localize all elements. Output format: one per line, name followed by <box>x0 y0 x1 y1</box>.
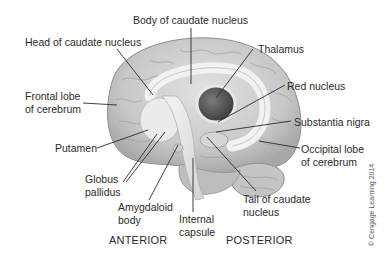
label-putamen: Putamen <box>55 142 97 155</box>
label-globus-pallidus: Globus pallidus <box>85 173 121 198</box>
label-internal-capsule-line1: Internal <box>179 213 215 226</box>
label-substantia-nigra: Substantia nigra <box>294 116 370 129</box>
label-occipital-lobe-line1: Occipital lobe <box>301 143 364 156</box>
label-tail-of-caudate-nucleus: Tail of caudate nucleus <box>243 193 311 218</box>
midbrain <box>200 132 228 148</box>
label-amygdaloid-line2: body <box>118 214 173 227</box>
label-tail-caudate-line2: nucleus <box>243 206 311 219</box>
label-globus-pallidus-line2: pallidus <box>85 186 121 199</box>
label-frontal-lobe-line2: of cerebrum <box>25 103 81 116</box>
label-head-of-caudate-nucleus: Head of caudate nucleus <box>25 36 141 49</box>
label-occipital-lobe: Occipital lobe of cerebrum <box>301 143 364 168</box>
label-amygdaloid-line1: Amygdaloid <box>118 201 173 214</box>
thalamus <box>197 86 235 122</box>
label-thalamus: Thalamus <box>258 43 304 56</box>
label-red-nucleus: Red nucleus <box>287 80 345 93</box>
label-frontal-lobe: Frontal lobe of cerebrum <box>25 90 81 115</box>
orientation-anterior: ANTERIOR <box>109 234 167 246</box>
copyright-notice: © Cengage Learning 2014 <box>368 164 375 246</box>
brain-diagram: Body of caudate nucleus Head of caudate … <box>0 0 388 263</box>
label-internal-capsule: Internal capsule <box>179 213 215 238</box>
cerebellum <box>231 163 284 197</box>
orientation-posterior: POSTERIOR <box>226 234 293 246</box>
label-body-of-caudate-nucleus: Body of caudate nucleus <box>133 14 248 27</box>
label-amygdaloid-body: Amygdaloid body <box>118 201 173 226</box>
label-globus-pallidus-line1: Globus <box>85 173 121 186</box>
label-tail-caudate-line1: Tail of caudate <box>243 193 311 206</box>
label-frontal-lobe-line1: Frontal lobe <box>25 90 81 103</box>
label-occipital-lobe-line2: of cerebrum <box>301 156 364 169</box>
label-internal-capsule-line2: capsule <box>179 226 215 239</box>
